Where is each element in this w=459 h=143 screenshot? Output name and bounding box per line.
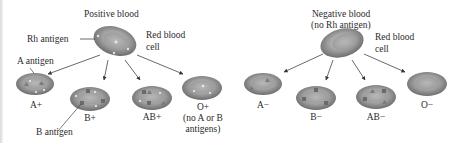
cell-a-negative: [244, 73, 282, 95]
type-o-negative-label: O−: [415, 100, 439, 111]
neg-red-blood-cell-label-line1: Red blood: [375, 32, 414, 43]
o-positive-note-line1: (no A or B: [176, 113, 230, 124]
rh-antigen-label: Rh antigen: [27, 34, 68, 45]
cell-o-negative: [407, 72, 447, 96]
cell-ab-positive: [132, 86, 172, 110]
cell-a-positive: [16, 73, 54, 95]
type-a-negative-label: A−: [251, 100, 275, 111]
a-antigen-label: A antigen: [17, 56, 54, 67]
type-o-positive-label: O+: [182, 102, 224, 113]
positive-blood-title: Positive blood: [84, 9, 139, 20]
red-blood-cell-label-line2: cell: [146, 42, 160, 53]
type-ab-positive-label: AB+: [137, 112, 167, 123]
type-b-positive-label: B+: [78, 113, 102, 124]
o-positive-note-line2: antigens): [176, 124, 230, 135]
cell-o-positive: [182, 76, 222, 100]
cell-ab-negative: [356, 85, 396, 109]
neg-red-blood-cell-label-line2: cell: [375, 44, 389, 55]
type-a-positive-label: A+: [24, 100, 48, 111]
positive-parent-cell: [90, 21, 140, 61]
red-blood-cell-label-line1: Red blood: [146, 30, 185, 41]
type-ab-negative-label: AB−: [360, 112, 392, 123]
negative-blood-title-line2: (no Rh antigen): [311, 20, 371, 31]
b-antigen-label: B antigen: [36, 127, 73, 138]
type-b-negative-label: B−: [304, 112, 328, 123]
cell-b-positive: [70, 87, 110, 111]
cell-b-negative: [296, 86, 336, 110]
negative-blood-title-line1: Negative blood: [312, 9, 370, 20]
